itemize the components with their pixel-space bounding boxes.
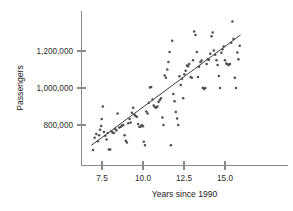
data-point [222,45,225,48]
data-point [214,53,217,56]
data-point [100,118,103,121]
data-point [147,102,150,105]
data-point [191,77,194,80]
data-point [173,100,176,103]
x-tick-label: 10.0 [135,174,151,183]
y-axis-ticks: 800,0001,000,0001,200,000 [37,47,86,130]
data-point [183,73,186,76]
data-point [200,59,203,62]
data-point [97,140,100,143]
data-point [109,148,112,151]
data-point [98,134,101,137]
x-tick-label: 12.5 [176,174,192,183]
data-point [220,52,223,55]
data-point [170,144,173,147]
data-point [99,128,102,131]
x-axis-ticks: 7.510.012.515.0 [96,161,233,183]
data-point [105,138,108,141]
data-point [102,105,105,108]
y-axis-title: Passengers [15,65,25,110]
data-point [231,20,234,23]
data-point [163,74,166,77]
data-point [181,78,184,81]
regression-line [91,35,240,145]
data-point [166,68,169,71]
data-point [197,76,200,79]
data-point [162,124,165,127]
data-point [193,30,196,33]
data-point [239,45,242,48]
data-point [127,122,130,125]
data-point [198,65,201,68]
data-point [237,58,240,61]
chart-canvas: 800,0001,000,0001,200,000 7.510.012.515.… [0,0,293,211]
data-point [177,124,180,127]
y-tick-label: 1,000,000 [37,84,74,93]
y-tick-label: 800,000 [43,121,73,130]
data-point [165,77,168,80]
data-point [192,59,195,62]
data-point [211,31,214,34]
x-tick-label: 7.5 [96,174,108,183]
data-point [184,70,187,73]
data-point [92,149,95,152]
data-point [113,132,116,135]
data-point [156,105,159,108]
data-point [188,63,191,65]
data-point [131,112,134,115]
data-point [235,87,238,90]
data-point [209,53,212,56]
data-point [236,51,239,54]
data-point [143,140,146,143]
data-point [167,61,170,64]
data-point [104,134,107,137]
data-point [215,59,218,62]
data-point [142,125,145,128]
x-tick-label: 15.0 [217,174,233,183]
data-point [103,131,106,134]
x-axis-title: Years since 1990 [152,189,218,199]
data-point [234,77,237,80]
data-point [176,117,179,120]
data-point [179,84,182,87]
data-point [182,97,185,100]
data-point [187,65,190,68]
data-point [161,116,164,119]
data-point [229,63,232,65]
data-point [208,58,211,61]
data-point [221,48,224,51]
data-point [178,75,181,78]
data-point [196,51,199,54]
data-point [204,87,207,90]
data-point [93,137,96,140]
data-point [171,40,174,43]
data-point [219,87,222,90]
scatter-plot-figure: 800,0001,000,0001,200,000 7.510.012.515.… [0,0,293,211]
data-point [175,111,178,114]
data-point [128,118,131,121]
data-point [116,112,119,115]
data-point [213,49,216,52]
y-tick-label: 1,200,000 [37,47,74,56]
data-point [172,93,175,96]
data-point [230,41,233,44]
data-point [160,97,163,100]
data-point [106,132,109,135]
data-point [210,35,213,38]
data-point [151,98,154,101]
data-point [100,125,103,128]
data-point [136,115,139,118]
data-point [224,59,227,62]
data-point [168,51,171,54]
data-point [218,75,221,78]
data-point [216,64,219,67]
data-points [92,20,241,151]
data-point [137,123,140,126]
data-point [150,86,153,89]
data-point [205,63,208,65]
data-point [115,129,118,132]
axes [81,11,288,166]
data-point [123,134,126,137]
data-point [194,34,197,37]
data-point [129,121,132,124]
